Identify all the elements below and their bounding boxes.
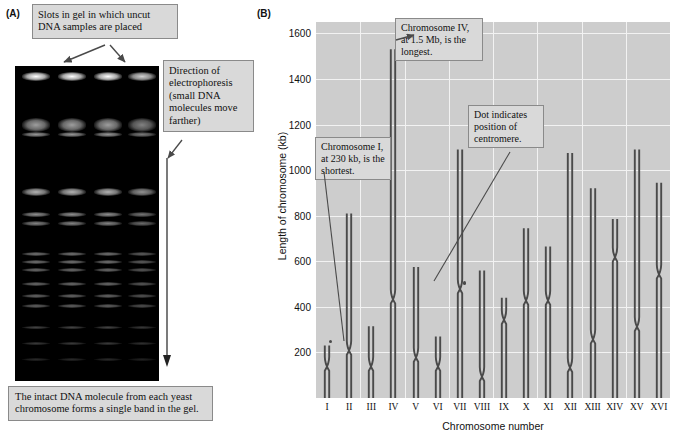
gel-band [128,212,156,217]
gel-band [58,326,86,329]
chromosome-VIII [474,22,490,398]
x-axis-tick-XIII: XIII [584,402,600,412]
gel-band [58,212,86,217]
gel-band [128,294,156,298]
gel-band [58,188,86,196]
gel-band [94,294,122,298]
gel-band [128,358,156,361]
gridline-vertical [405,22,406,398]
callout-chromosome-iv-longest: Chromosome IV, at 1.5 Mb, is the longest… [395,18,483,61]
gel-band [94,282,122,286]
gel-band [94,358,122,361]
y-axis-tick: 600 [271,256,311,267]
chromosome-XV [629,22,645,398]
panel-b: (B) Length of chromosome (kb) Chromosome… [255,0,690,442]
gel-band [94,342,122,345]
chromosome-II [341,22,357,398]
gel-band [22,268,50,272]
gel-band [22,118,50,132]
x-axis-tick-IV: IV [388,402,398,412]
x-axis-tick-III: III [367,402,377,412]
gridline-vertical [493,22,494,398]
gel-band [128,221,156,226]
gridline-vertical [449,22,450,398]
gridline-vertical [537,22,538,398]
gel-band [58,294,86,298]
x-axis-tick-I: I [325,402,328,412]
x-axis-tick-IX: IX [499,402,509,412]
gel-band [22,72,50,81]
chromosome-XII [562,22,578,398]
y-axis-tick: 1400 [271,73,311,84]
panel-b-letter: (B) [257,8,271,19]
callout-intact-dna-molecule: The intact DNA molecule from each yeast … [8,386,213,421]
gel-band [58,304,86,308]
gel-band [22,342,50,345]
chromosome-XI [540,22,556,398]
chromosome-XIV [607,22,623,398]
x-axis-tick-V: V [412,402,419,412]
x-axis-tick-XVI: XVI [650,402,667,412]
gel-band [94,252,122,256]
callout-centromere-dot: Dot indicates position of centromere. [468,105,544,148]
x-axis-tick-VIII: VIII [474,402,490,412]
chromosome-XIII [585,22,601,398]
gel-band [22,132,50,137]
gel-band [58,260,86,264]
y-axis-tick: 1600 [271,28,311,39]
gel-band [22,252,50,256]
gel-electrophoresis-image [15,66,159,381]
gel-band [128,268,156,272]
gel-band [22,282,50,286]
gel-lane [93,66,123,381]
gel-band [128,326,156,329]
gel-band [58,358,86,361]
gel-band [22,358,50,361]
gel-band [58,268,86,272]
gel-band [128,342,156,345]
gel-band [128,72,156,81]
gel-band [128,304,156,308]
centromere-dot-chromosome-i [329,340,333,344]
x-axis-label: Chromosome number [316,420,670,432]
chart-plot-area [316,22,670,398]
gridline-vertical [360,22,361,398]
gel-band [58,252,86,256]
chromosome-I [319,22,335,398]
gel-band [94,304,122,308]
x-axis-tick-XV: XV [630,402,644,412]
chromosome-XVI [651,22,667,398]
x-axis-tick-XII: XII [564,402,577,412]
gel-band [94,268,122,272]
chromosome-III [363,22,379,398]
y-axis-tick: 1200 [271,119,311,130]
y-axis-tick: 800 [271,210,311,221]
gel-band [22,294,50,298]
gel-band [128,188,156,196]
x-axis-tick-XIV: XIV [606,402,623,412]
gel-band [22,188,50,196]
chromosome-VI [430,22,446,398]
gel-band [94,326,122,329]
x-axis-tick-X: X [523,402,530,412]
gel-band [22,221,50,226]
gel-band [128,252,156,256]
gridline-vertical [582,22,583,398]
gel-band [128,282,156,286]
gridline-vertical [626,22,627,398]
gel-band [58,221,86,226]
chromosome-X [518,22,534,398]
gel-band [94,260,122,264]
x-axis-tick-XI: XI [543,402,553,412]
gel-band [94,72,122,81]
callout-slots-in-gel: Slots in gel in which uncut DNA samples … [32,4,178,39]
gel-band [58,132,86,137]
gel-lane [127,66,157,381]
gel-band [94,212,122,217]
callout-direction-of-electrophoresis: Direction of electrophoresis (small DNA … [163,60,254,132]
panel-a-letter: (A) [6,8,20,19]
chromosome-V [408,22,424,398]
chromosome-VII [452,22,468,398]
gel-band [58,342,86,345]
gel-band [128,260,156,264]
